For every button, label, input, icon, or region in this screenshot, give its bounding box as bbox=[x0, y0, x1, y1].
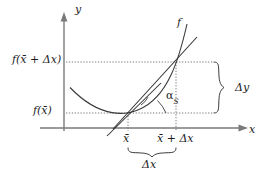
diagram-svg bbox=[0, 0, 266, 176]
y-axis-label: y bbox=[75, 4, 81, 15]
secant-line bbox=[113, 37, 197, 129]
y-tick-label-upper: f(x̄ + Δx) bbox=[12, 54, 61, 65]
x-tick-label-xbar-plus-dx: x̄ + Δx bbox=[157, 133, 194, 144]
angle-label-alpha-s: αS bbox=[166, 90, 179, 104]
delta-x-brace bbox=[128, 148, 176, 157]
figure-canvas: y x f f(x̄ + Δx) f(x̄) x̄ x̄ + Δx Δx Δy … bbox=[0, 0, 266, 176]
delta-x-label: Δx bbox=[142, 159, 156, 170]
angle-label-subscript: S bbox=[173, 97, 178, 106]
curve-label-f: f bbox=[177, 17, 181, 28]
x-axis bbox=[40, 125, 248, 132]
delta-y-brace bbox=[214, 62, 224, 113]
y-tick-label-lower: f(x̄) bbox=[33, 105, 52, 116]
x-tick-label-xbar: x̄ bbox=[123, 133, 129, 144]
guide-lines bbox=[66, 62, 213, 131]
x-axis-label: x bbox=[249, 124, 255, 135]
delta-y-label: Δy bbox=[235, 82, 249, 93]
